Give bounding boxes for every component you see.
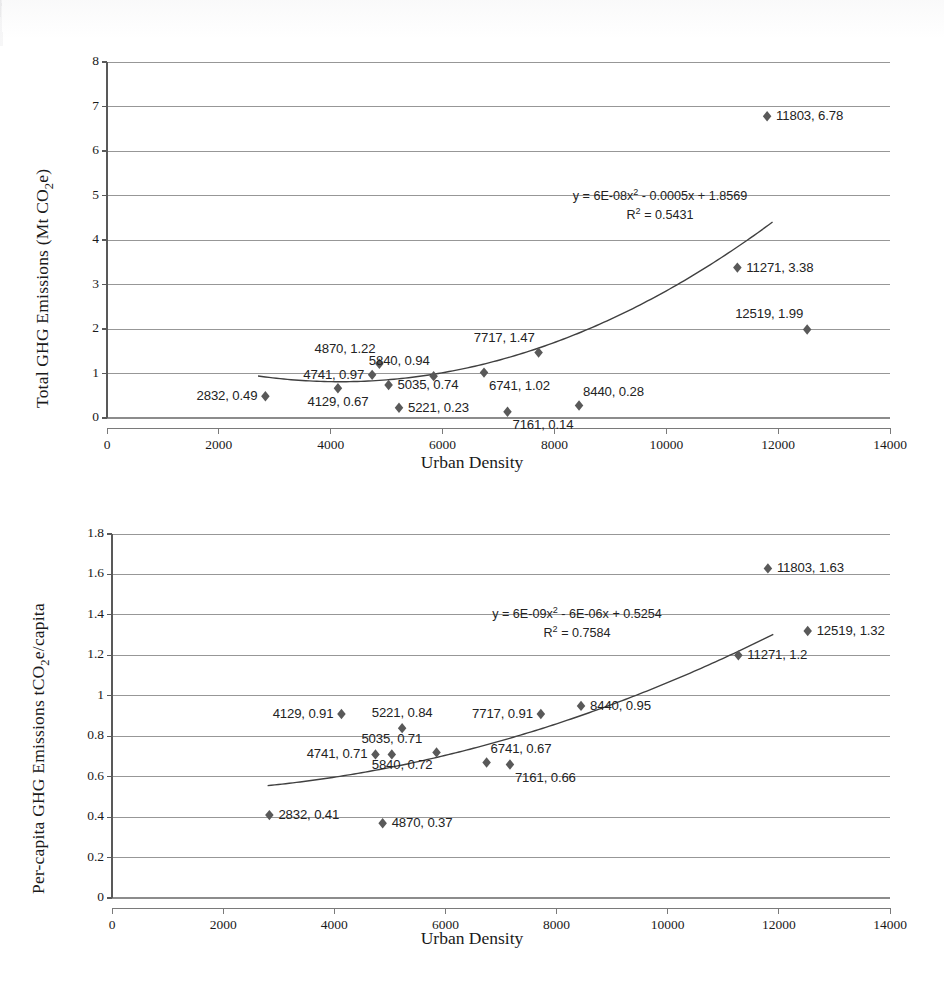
data-point-marker[interactable] bbox=[482, 757, 491, 767]
y-axis-tick-label: 1 bbox=[61, 365, 99, 381]
x-axis-tick-label: 14000 bbox=[850, 437, 930, 453]
data-point-marker[interactable] bbox=[734, 650, 743, 660]
data-point-marker[interactable] bbox=[733, 262, 742, 272]
equation-pre: y = 6E-09x bbox=[492, 607, 553, 621]
data-point-marker[interactable] bbox=[803, 324, 812, 334]
x-axis-tick-label: 6000 bbox=[403, 437, 483, 453]
data-point-label: 4870, 0.37 bbox=[392, 815, 453, 830]
data-point-label: 4741, 0.97 bbox=[303, 367, 364, 382]
data-point-marker[interactable] bbox=[575, 400, 584, 410]
data-point-marker[interactable] bbox=[265, 810, 274, 820]
y-axis-title-post: e/capita bbox=[28, 603, 48, 659]
data-point-label: 7717, 1.47 bbox=[474, 330, 535, 345]
equation-post: - 0.0005x + 1.8569 bbox=[638, 189, 747, 203]
chart-per-capita-ghg-emissions: 00.20.40.60.811.21.41.61.802000400060008… bbox=[0, 496, 944, 993]
y-axis-tick-label: 7 bbox=[61, 98, 99, 114]
data-point-label: 8440, 0.95 bbox=[590, 698, 651, 713]
data-point-marker[interactable] bbox=[763, 111, 772, 121]
equation-line: y = 6E-08x2 - 0.0005x + 1.8569 bbox=[520, 186, 800, 205]
data-point-label: 8440, 0.28 bbox=[583, 384, 644, 399]
data-point-label: 5221, 0.23 bbox=[408, 400, 469, 415]
data-point-marker[interactable] bbox=[537, 709, 546, 719]
data-point-label: 11803, 1.63 bbox=[777, 560, 844, 575]
data-point-marker[interactable] bbox=[503, 407, 512, 417]
data-point-label: 5840, 0.94 bbox=[369, 353, 430, 368]
data-point-label: 11271, 1.2 bbox=[747, 647, 807, 662]
x-axis-tick-label: 10000 bbox=[626, 437, 706, 453]
trendline-equation: y = 6E-09x2 - 6E-06x + 0.5254R2 = 0.7584 bbox=[432, 604, 722, 642]
y-axis-tick-label: 0.4 bbox=[66, 808, 104, 824]
data-point-marker[interactable] bbox=[384, 380, 393, 390]
data-point-marker[interactable] bbox=[803, 626, 812, 636]
y-axis-title-subscript: 2 bbox=[42, 183, 56, 190]
data-point-label: 4741, 0.71 bbox=[307, 746, 368, 761]
x-axis-tick-label: 0 bbox=[67, 437, 147, 453]
data-point-label: 12519, 1.32 bbox=[817, 623, 885, 638]
data-point-label: 4129, 0.67 bbox=[308, 394, 369, 409]
data-point-label: 7161, 0.14 bbox=[513, 417, 574, 432]
data-point-label: 6741, 0.67 bbox=[491, 741, 552, 756]
y-axis-tick-label: 3 bbox=[61, 276, 99, 292]
y-axis-tick-label: 1.6 bbox=[66, 565, 104, 581]
x-axis-tick-label: 4000 bbox=[291, 437, 371, 453]
data-point-marker[interactable] bbox=[261, 391, 270, 401]
x-axis-title: Urban Density bbox=[0, 452, 944, 473]
data-point-label: 4129, 0.91 bbox=[273, 706, 334, 721]
data-point-label: 7161, 0.66 bbox=[515, 770, 576, 785]
data-point-label: 6741, 1.02 bbox=[489, 378, 550, 393]
r-squared-post: = 0.7584 bbox=[558, 626, 611, 640]
y-axis-tick-label: 0.8 bbox=[66, 727, 104, 743]
y-axis-title-pre: Per-capita GHG Emissions tCO bbox=[28, 666, 48, 894]
data-point-label: 7717, 0.91 bbox=[472, 706, 533, 721]
data-point-label: 2832, 0.49 bbox=[197, 388, 258, 403]
data-point-marker[interactable] bbox=[506, 759, 515, 769]
y-axis-tick-label: 5 bbox=[61, 187, 99, 203]
y-axis-tick-label: 0.2 bbox=[66, 849, 104, 865]
data-point-marker[interactable] bbox=[480, 367, 489, 377]
data-point-marker[interactable] bbox=[395, 403, 404, 413]
y-axis-title-subscript: 2 bbox=[38, 659, 52, 666]
y-axis-tick-label: 0 bbox=[61, 409, 99, 425]
data-point-label: 11271, 3.38 bbox=[746, 260, 813, 275]
data-point-label: 5840, 0.72 bbox=[372, 757, 433, 772]
y-axis-tick-label: 2 bbox=[61, 320, 99, 336]
y-axis-tick-label: 0.6 bbox=[66, 768, 104, 784]
axes bbox=[107, 534, 890, 914]
y-axis-tick-label: 1.4 bbox=[66, 606, 104, 622]
data-point-label: 5221, 0.84 bbox=[372, 705, 433, 720]
trendline-equation: y = 6E-08x2 - 0.0005x + 1.8569R2 = 0.543… bbox=[520, 186, 800, 224]
data-point-label: 5035, 0.71 bbox=[361, 731, 422, 746]
data-point-label: 12519, 1.99 bbox=[735, 306, 803, 321]
y-axis-tick-label: 1.2 bbox=[66, 646, 104, 662]
trendline-curve bbox=[258, 222, 773, 382]
y-axis-title: Total GHG Emissions (Mt CO2e) bbox=[32, 169, 57, 408]
r-squared-pre: R bbox=[543, 626, 552, 640]
r-squared-line: R2 = 0.7584 bbox=[432, 623, 722, 642]
equation-post: - 6E-06x + 0.5254 bbox=[558, 607, 662, 621]
r-squared-pre: R bbox=[626, 208, 635, 222]
plot-area bbox=[0, 0, 944, 500]
data-point-label: 5035, 0.74 bbox=[398, 377, 459, 392]
y-axis-tick-label: 8 bbox=[61, 53, 99, 69]
chart-total-ghg-emissions: 0123456780200040006000800010000120001400… bbox=[0, 0, 944, 500]
data-point-label: 4870, 1.22 bbox=[315, 341, 376, 356]
y-axis-tick-label: 6 bbox=[61, 142, 99, 158]
y-axis-tick-label: 1.8 bbox=[66, 525, 104, 541]
data-point-marker[interactable] bbox=[378, 818, 387, 828]
y-axis-tick-label: 1 bbox=[66, 687, 104, 703]
y-axis-title-pre: Total GHG Emissions (Mt CO bbox=[32, 189, 52, 408]
x-axis-title: Urban Density bbox=[0, 928, 944, 949]
equation-pre: y = 6E-08x bbox=[573, 189, 634, 203]
x-axis-tick-label: 12000 bbox=[738, 437, 818, 453]
data-point-marker[interactable] bbox=[764, 563, 773, 573]
data-point-marker[interactable] bbox=[368, 370, 377, 380]
gridlines bbox=[107, 62, 890, 418]
y-axis-tick-label: 0 bbox=[66, 889, 104, 905]
r-squared-line: R2 = 0.5431 bbox=[520, 205, 800, 224]
data-point-marker[interactable] bbox=[337, 709, 346, 719]
y-axis-title-post: e) bbox=[32, 169, 52, 183]
y-axis-title: Per-capita GHG Emissions tCO2e/capita bbox=[28, 603, 53, 894]
data-point-marker[interactable] bbox=[577, 701, 586, 711]
x-axis-tick-label: 2000 bbox=[179, 437, 259, 453]
data-point-marker[interactable] bbox=[334, 383, 343, 393]
